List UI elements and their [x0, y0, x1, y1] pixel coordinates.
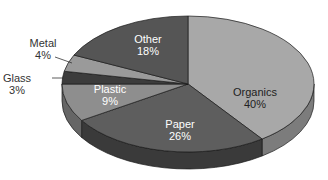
slice-label-value: 26%	[150, 130, 210, 142]
slice-label-name: Other	[118, 33, 178, 45]
slice-label-value: 18%	[118, 45, 178, 57]
slice-label-plastic: Plastic9%	[80, 83, 140, 107]
slice-label-name: Glass	[0, 72, 47, 84]
slice-label-value: 4%	[13, 49, 73, 61]
slice-label-value: 9%	[80, 95, 140, 107]
slice-label-value: 40%	[225, 98, 285, 110]
slice-label-paper: Paper26%	[150, 118, 210, 142]
slice-label-metal: Metal4%	[13, 37, 73, 61]
slice-label-name: Plastic	[80, 83, 140, 95]
slice-label-name: Paper	[150, 118, 210, 130]
slice-label-name: Organics	[225, 86, 285, 98]
slice-label-name: Metal	[13, 37, 73, 49]
slice-label-organics: Organics40%	[225, 86, 285, 110]
slice-label-glass: Glass3%	[0, 72, 47, 96]
slice-label-other: Other18%	[118, 33, 178, 57]
slice-label-value: 3%	[0, 84, 47, 96]
